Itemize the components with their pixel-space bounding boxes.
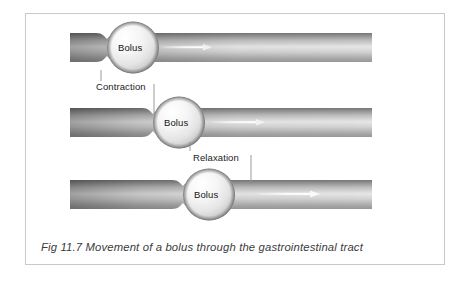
- relaxation-callout-label: Relaxation: [193, 152, 239, 163]
- figure-root: Bolus Bolus Bolus Contraction Relaxation…: [0, 0, 471, 281]
- stage-1-group: [70, 22, 372, 74]
- peristalsis-diagram: Bolus Bolus Bolus Contraction Relaxation…: [0, 0, 471, 281]
- stage-1-bolus-label: Bolus: [118, 42, 142, 53]
- figure-caption: Fig 11.7 Movement of a bolus through the…: [41, 241, 363, 253]
- stage-2-group: [70, 97, 372, 149]
- contraction-callout-label: Contraction: [96, 81, 146, 92]
- stage-2-bolus-label: Bolus: [164, 117, 188, 128]
- stage-3-group: [70, 169, 372, 221]
- stage-3-bolus-label: Bolus: [194, 189, 218, 200]
- diagram-canvas: [0, 0, 471, 281]
